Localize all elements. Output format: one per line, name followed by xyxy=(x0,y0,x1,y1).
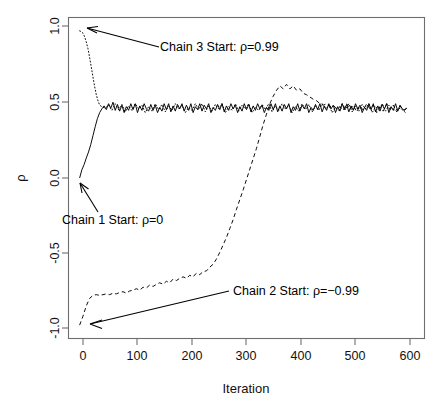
x-tick-label: 600 xyxy=(400,349,421,363)
x-tick-label: 500 xyxy=(345,349,366,363)
y-tick-label: -0.5 xyxy=(48,242,62,264)
y-tick-label: 0.5 xyxy=(48,93,62,110)
annotation-chain-1-label: Chain 1 Start: ρ=0 xyxy=(62,213,163,227)
x-axis-tick-labels: 0 100 200 300 400 500 600 xyxy=(80,349,421,363)
chart-canvas: 1.0 0.5 0.0 -0.5 -1.0 ρ 0 100 200 300 40… xyxy=(0,0,442,405)
x-tick-label: 200 xyxy=(182,349,203,363)
y-tick-label: 1.0 xyxy=(48,17,62,34)
x-tick-label: 100 xyxy=(127,349,148,363)
x-axis-title: Iteration xyxy=(223,381,270,396)
y-tick-label: 0.0 xyxy=(48,169,62,186)
trace-plot-figure: 1.0 0.5 0.0 -0.5 -1.0 ρ 0 100 200 300 40… xyxy=(0,0,442,405)
y-axis-tick-labels: 1.0 0.5 0.0 -0.5 -1.0 xyxy=(48,17,62,339)
annotation-chain-3-label: Chain 3 Start: ρ=0.99 xyxy=(160,40,279,54)
annotation-chain-3: Chain 3 Start: ρ=0.99 xyxy=(87,27,279,55)
x-tick-label: 300 xyxy=(236,349,257,363)
series-group xyxy=(80,31,407,325)
y-axis-title: ρ xyxy=(13,174,28,181)
x-tick-label: 0 xyxy=(80,349,87,363)
annotation-chain-1: Chain 1 Start: ρ=0 xyxy=(62,183,163,227)
y-axis-ticks xyxy=(62,26,69,328)
series-line-chain-1 xyxy=(80,102,407,178)
x-tick-label: 400 xyxy=(291,349,312,363)
y-tick-label: -1.0 xyxy=(48,317,62,339)
x-axis-ticks xyxy=(83,339,410,346)
annotation-chain-2-label: Chain 2 Start: ρ=−0.99 xyxy=(233,284,359,298)
